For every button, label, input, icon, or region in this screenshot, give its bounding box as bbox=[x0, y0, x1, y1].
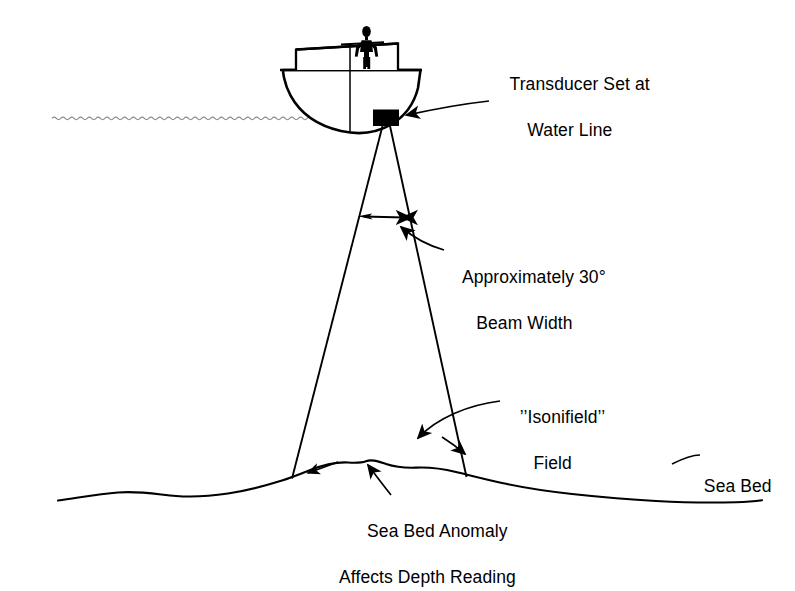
label-transducer-line2: Water Line bbox=[490, 119, 650, 142]
label-sea-bed-anomaly: Sea Bed Anomaly Affects Depth Reading bbox=[339, 497, 516, 591]
leader-arrow-icon bbox=[401, 227, 444, 250]
leader-arrow-icon bbox=[368, 465, 391, 495]
double-headed-arrow-icon bbox=[358, 213, 414, 221]
label-beam-width-line2: Beam Width bbox=[443, 312, 606, 335]
label-anomaly-line2: Affects Depth Reading bbox=[339, 566, 516, 589]
label-beam-width: Approximately 30° Beam Width bbox=[443, 243, 606, 381]
sonar-beam-icon bbox=[292, 126, 467, 479]
label-isonifield-line2: Field bbox=[500, 452, 605, 475]
label-isonifield-line1: ’’Isonifield’’ bbox=[520, 407, 605, 427]
leader-arrow-icon bbox=[407, 101, 490, 115]
label-sea-bed: Sea Bed bbox=[684, 452, 772, 521]
label-sea-bed-line1: Sea Bed bbox=[704, 476, 772, 496]
transducer-icon bbox=[373, 110, 399, 127]
boat-icon bbox=[280, 42, 422, 133]
label-transducer-line1: Transducer Set at bbox=[510, 74, 650, 94]
label-beam-width-line1: Approximately 30° bbox=[462, 267, 606, 287]
label-transducer-set-at-water-line: Transducer Set at Water Line bbox=[490, 50, 650, 188]
leader-arrow-icon bbox=[418, 401, 500, 438]
label-anomaly-line1: Sea Bed Anomaly bbox=[367, 521, 508, 541]
leader-arrow-icon bbox=[442, 437, 465, 454]
